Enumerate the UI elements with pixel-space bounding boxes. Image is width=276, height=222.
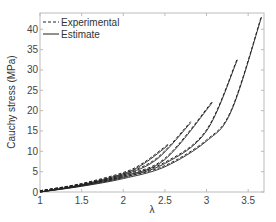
y-tick-label: 35 bbox=[27, 44, 39, 55]
plot-area bbox=[40, 13, 264, 192]
y-tick-label: 15 bbox=[27, 125, 39, 136]
x-tick-label: 2.5 bbox=[158, 195, 172, 206]
x-tick-label: 3 bbox=[204, 195, 210, 206]
y-tick-label: 40 bbox=[27, 24, 39, 35]
y-axis-label: Cauchy stress (MPa) bbox=[6, 55, 17, 148]
y-tick-label: 0 bbox=[32, 187, 38, 198]
x-tick-label: 1 bbox=[37, 195, 43, 206]
y-tick-label: 20 bbox=[27, 105, 39, 116]
x-axis-label: λ bbox=[150, 204, 155, 215]
y-tick-label: 5 bbox=[32, 166, 38, 177]
y-tick-label: 25 bbox=[27, 85, 39, 96]
x-tick-label: 3.5 bbox=[241, 195, 255, 206]
y-tick-label: 10 bbox=[27, 146, 39, 157]
y-tick-label: 30 bbox=[27, 64, 39, 75]
x-tick-label: 2 bbox=[120, 195, 126, 206]
legend-estimate-label: Estimate bbox=[61, 29, 100, 40]
legend-experimental-label: Experimental bbox=[61, 17, 119, 28]
x-tick-label: 1.5 bbox=[75, 195, 89, 206]
stress-strain-chart: 11.522.533.5 0510152025303540 λ Cauchy s… bbox=[0, 0, 276, 222]
